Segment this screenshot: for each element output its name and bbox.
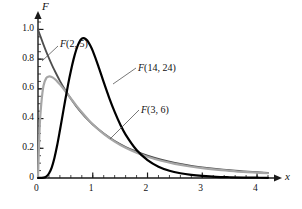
y-axis-label: F — [42, 0, 49, 12]
x-axis-label: x — [285, 170, 290, 182]
x-tick-label: 1 — [89, 183, 94, 193]
axes — [34, 11, 282, 182]
annotation-leader-lines — [42, 46, 139, 139]
y-tick-label: 0.4 — [22, 112, 34, 122]
curve-label: F(3, 6) — [141, 104, 169, 115]
y-tick-label: 1.0 — [22, 23, 34, 33]
x-tick-label: 2 — [144, 183, 149, 193]
figure-f-distribution-pdf: 0123400.20.40.60.81.0 F(2, 5)F(14, 24)F(… — [0, 0, 302, 209]
x-tick-label: 3 — [198, 183, 203, 193]
x-tick-label: 0 — [34, 183, 39, 193]
y-tick-label: 0.6 — [22, 82, 34, 92]
curve-label: F(14, 24) — [138, 62, 176, 73]
y-tick-label: 0.2 — [22, 142, 34, 152]
x-tick-label: 4 — [253, 183, 258, 193]
y-tick-label: 0 — [29, 172, 34, 182]
y-tick-label: 0.8 — [22, 53, 34, 63]
curve-label: F(2, 5) — [60, 38, 88, 49]
